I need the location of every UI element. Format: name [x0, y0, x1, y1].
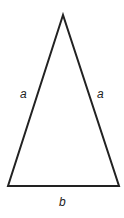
- base-label: b: [59, 195, 66, 209]
- left-side-label: a: [20, 87, 27, 101]
- triangle-diagram: a a b: [0, 0, 124, 218]
- right-side-label: a: [97, 87, 104, 101]
